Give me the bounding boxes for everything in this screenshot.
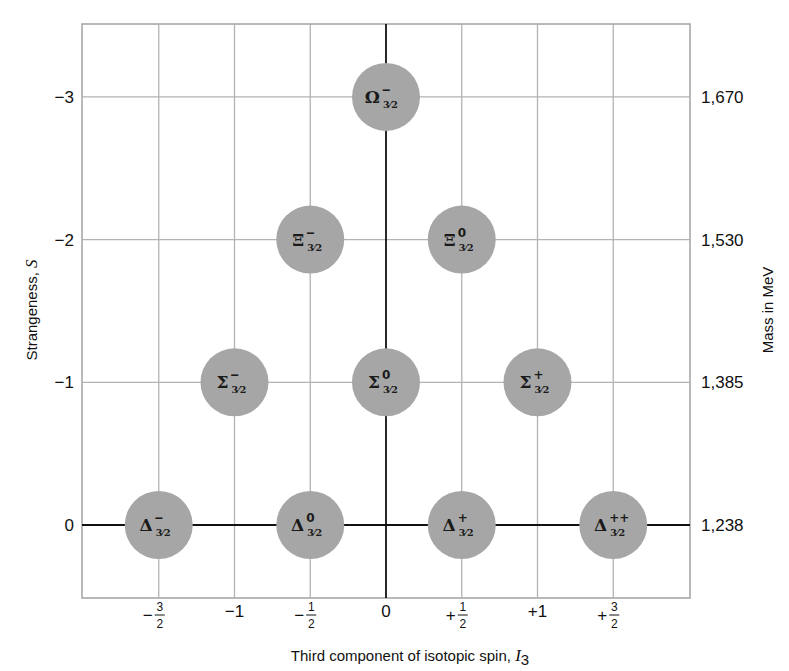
- svg-text:1: 1: [459, 600, 466, 614]
- svg-text:−1: −1: [225, 602, 244, 621]
- particle-symbol: Δ: [443, 515, 456, 535]
- svg-text:−: −: [143, 606, 153, 625]
- isospin-tick-label: −1: [225, 602, 244, 621]
- particle-deltaplusplus: Δ++3⁄2: [579, 491, 647, 559]
- particle-circle: [276, 491, 344, 559]
- particle-spin: 3⁄2: [459, 527, 474, 538]
- svg-text:2: 2: [156, 617, 163, 631]
- mass-tick-label: 1,238: [701, 516, 744, 535]
- particle-charge: ‒: [382, 83, 390, 97]
- svg-text:+: +: [446, 606, 456, 625]
- particle-charge: 0: [458, 226, 466, 240]
- mass-tick-labels: 1,6701,5301,3851,238: [701, 88, 744, 535]
- isospin-tick-label: +12: [446, 600, 468, 631]
- particle-charge: 0: [306, 511, 314, 525]
- particle-spin: 3⁄2: [383, 99, 398, 110]
- particle-symbol: Σ: [368, 372, 380, 392]
- particle-delta0: Δ03⁄2: [276, 491, 344, 559]
- particle-deltaplus: Δ+3⁄2: [428, 491, 496, 559]
- strangeness-tick-label: −1: [55, 373, 74, 392]
- x-axis-title: Third component of isotopic spin, I3: [291, 646, 529, 668]
- particle-spin: 3⁄2: [307, 242, 322, 253]
- svg-text:1: 1: [308, 600, 315, 614]
- particle-spin: 3⁄2: [535, 384, 550, 395]
- particle-deltaminus: Δ‒3⁄2: [125, 491, 193, 559]
- svg-text:2: 2: [308, 617, 315, 631]
- isospin-tick-labels: −32−1−120+12+1+32: [143, 600, 619, 631]
- particle-charge: ++: [609, 511, 629, 525]
- particle-symbol: Σ: [519, 372, 531, 392]
- particle-symbol: Σ: [216, 372, 228, 392]
- particle-sigma0: Σ03⁄2: [352, 348, 420, 416]
- particle-sigmaplus: Σ+3⁄2: [504, 348, 572, 416]
- strangeness-tick-label: −3: [55, 88, 74, 107]
- svg-text:−: −: [294, 606, 304, 625]
- strangeness-tick-label: 0: [65, 516, 74, 535]
- particle-symbol: Ω: [365, 87, 380, 107]
- particle-ximinus: Ξ‒3⁄2: [276, 206, 344, 274]
- particle-spin: 3⁄2: [232, 384, 247, 395]
- particle-sigmaminus: Σ‒3⁄2: [201, 348, 269, 416]
- particle-symbol: Δ: [594, 515, 607, 535]
- svg-text:+1: +1: [528, 602, 547, 621]
- particle-spin: 3⁄2: [610, 527, 625, 538]
- isospin-tick-label: 0: [381, 602, 390, 621]
- particle-spin: 3⁄2: [459, 242, 474, 253]
- svg-text:3: 3: [156, 600, 163, 614]
- isospin-tick-label: −32: [143, 600, 165, 631]
- svg-text:0: 0: [381, 602, 390, 621]
- mass-tick-label: 1,670: [701, 88, 744, 107]
- particle-omegaminus: Ω‒3⁄2: [352, 63, 420, 131]
- mass-tick-label: 1,530: [701, 231, 744, 250]
- baryon-decuplet-diagram: Ω‒3⁄2Ξ‒3⁄2Ξ03⁄2Σ‒3⁄2Σ03⁄2Σ+3⁄2Δ‒3⁄2Δ03⁄2…: [0, 0, 789, 671]
- particle-circle: [579, 491, 647, 559]
- particle-spin: 3⁄2: [156, 527, 171, 538]
- particle-circle: [125, 491, 193, 559]
- mass-tick-label: 1,385: [701, 373, 744, 392]
- particle-charge: +: [534, 368, 544, 382]
- strangeness-tick-labels: −3−2−10: [55, 88, 74, 535]
- svg-text:2: 2: [459, 617, 466, 631]
- particle-circle: [428, 491, 496, 559]
- particle-xi0: Ξ03⁄2: [428, 206, 496, 274]
- isospin-tick-label: +1: [528, 602, 547, 621]
- particle-charge: ‒: [155, 511, 163, 525]
- particle-charge: +: [458, 511, 468, 525]
- particle-charge: ‒: [306, 226, 314, 240]
- particle-symbol: Δ: [291, 515, 304, 535]
- strangeness-tick-label: −2: [55, 231, 74, 250]
- particle-symbol: Ξ: [292, 230, 304, 250]
- particle-spin: 3⁄2: [383, 384, 398, 395]
- particle-symbol: Δ: [140, 515, 153, 535]
- particle-symbol: Ξ: [444, 230, 456, 250]
- particle-spin: 3⁄2: [307, 527, 322, 538]
- mass-axis-title: Mass in MeV: [759, 267, 776, 354]
- svg-text:3: 3: [611, 600, 618, 614]
- y-axis-title: Strangeness, S: [22, 259, 41, 361]
- isospin-tick-label: +32: [597, 600, 619, 631]
- isospin-tick-label: −12: [294, 600, 316, 631]
- svg-text:2: 2: [611, 617, 618, 631]
- svg-text:+: +: [597, 606, 607, 625]
- particle-charge: ‒: [231, 368, 239, 382]
- particle-charge: 0: [382, 368, 390, 382]
